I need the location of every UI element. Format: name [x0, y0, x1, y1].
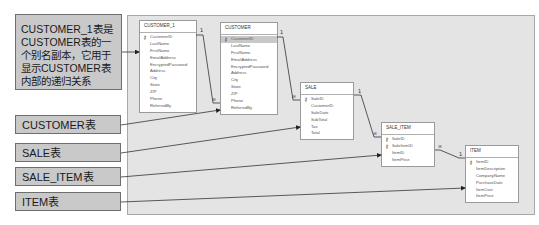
- svg-text:∞: ∞: [373, 130, 377, 136]
- svg-text:1: 1: [200, 27, 203, 33]
- svg-text:1: 1: [459, 151, 462, 157]
- relationship-lines: 1 ∞ 1 ∞ 1 ∞ ∞ 1: [0, 0, 539, 225]
- svg-text:∞: ∞: [212, 96, 216, 102]
- svg-text:1: 1: [358, 88, 361, 94]
- svg-text:∞: ∞: [438, 143, 442, 149]
- svg-text:∞: ∞: [292, 93, 296, 99]
- svg-text:1: 1: [280, 29, 283, 35]
